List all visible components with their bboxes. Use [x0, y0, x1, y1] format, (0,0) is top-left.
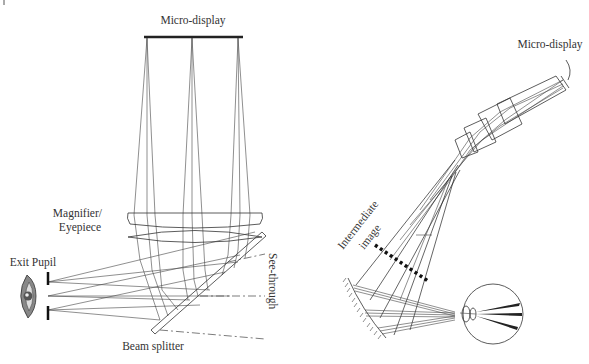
magnifier-lens — [127, 213, 262, 243]
right-micro-display-label: Micro-display — [517, 38, 582, 51]
see-through-lines — [228, 254, 265, 262]
mirror-to-eye-rays — [353, 285, 455, 334]
magnifier-label-line2: Eyepiece — [59, 221, 101, 234]
beam-splitter — [151, 232, 266, 334]
right-diagram: Micro-display — [335, 38, 583, 344]
eye-icon — [21, 275, 36, 318]
relay-lens-assembly — [390, 76, 566, 260]
left-ray-fans — [48, 38, 255, 320]
left-micro-display-label: Micro-display — [160, 14, 225, 27]
beam-splitter-label: Beam splitter — [122, 340, 184, 353]
see-through-lower — [160, 330, 265, 339]
eyeball-icon — [460, 284, 523, 344]
magnifier-label-line1: Magnifier/ — [53, 207, 103, 220]
relay-rays — [356, 160, 460, 335]
optics-figure: Micro-display Magnifier/ Eyepiece Bea — [0, 0, 589, 364]
exit-pupil-label: Exit Pupil — [10, 256, 56, 269]
left-diagram: Micro-display Magnifier/ Eyepiece Bea — [10, 14, 279, 353]
see-through-label: See-through — [266, 253, 279, 309]
curved-mirror — [343, 278, 386, 339]
micro-display-leader — [566, 60, 570, 80]
